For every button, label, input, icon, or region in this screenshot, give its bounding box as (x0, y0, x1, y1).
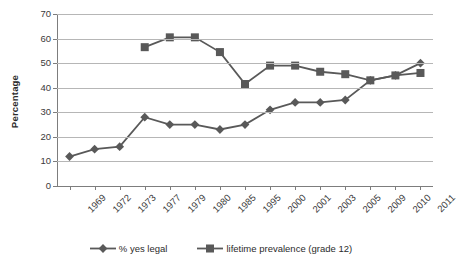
x-axis-tick-label: 1972 (110, 192, 133, 215)
y-axis-tick-label: 20 (27, 132, 51, 142)
y-axis-tick-label: 40 (27, 83, 51, 93)
x-axis-tick-label: 2011 (435, 192, 457, 214)
y-axis-tick-label: 70 (27, 9, 51, 19)
legend-item[interactable]: % yes legal (90, 243, 168, 254)
x-axis-tick-label: 1977 (160, 192, 183, 215)
x-axis-tick-label: 2009 (386, 192, 409, 215)
y-axis-title: Percentage (9, 62, 20, 142)
y-axis-tick-label: 10 (27, 157, 51, 167)
y-axis-tick-label: 0 (27, 181, 51, 191)
x-axis-tick-label: 2005 (360, 192, 383, 215)
y-axis-tick-label: 50 (27, 58, 51, 68)
legend-item[interactable]: lifetime prevalence (grade 12) (197, 243, 352, 254)
y-axis-tick-label: 30 (27, 108, 51, 118)
x-axis-tick-label: 1973 (135, 192, 158, 215)
x-axis-tick-label: 1979 (185, 192, 208, 215)
x-axis-tick-label: 2000 (285, 192, 308, 215)
x-axis-tick-label: 2001 (310, 192, 333, 215)
y-axis-tick-labels: 706050403020100 (25, 0, 51, 271)
x-axis-tick-label: 1985 (235, 192, 258, 215)
y-axis-tick-label: 60 (27, 34, 51, 44)
chart-legend: % yes legallifetime prevalence (grade 12… (0, 243, 442, 254)
diamond-marker-icon (90, 243, 116, 254)
legend-label: % yes legal (119, 244, 168, 254)
x-axis-tick-label: 1969 (85, 192, 108, 215)
x-axis-tick-labels: 1969197219731977197919801985199520002001… (57, 0, 433, 271)
x-axis-tick-label: 2003 (335, 192, 358, 215)
x-axis-tick-label: 1995 (260, 192, 283, 215)
x-axis-tick-label: 1980 (210, 192, 233, 215)
square-marker-icon (197, 243, 223, 254)
legend-label: lifetime prevalence (grade 12) (226, 244, 352, 254)
x-axis-tick-label: 2010 (411, 192, 434, 215)
